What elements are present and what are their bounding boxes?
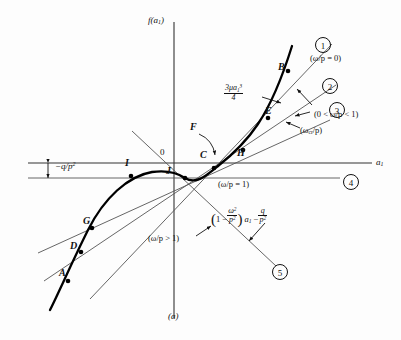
line-3-omega-cr-label: (ωcr/p) (300, 126, 322, 136)
badge-text-4: 4 (349, 178, 354, 188)
point-label-A: A (59, 268, 66, 278)
badge-text-5: 5 (278, 268, 283, 278)
point-label-I: I (125, 158, 129, 168)
point-dot-J (183, 176, 188, 181)
line-1-condition-label: (ω/p = 0) (310, 54, 341, 63)
line-3-condition-label: (0 < ω/p < 1) (314, 110, 358, 119)
point-label-J: J (166, 166, 171, 176)
point-label-D: D (70, 241, 77, 251)
y-axis-label: f(a1) (148, 16, 164, 26)
point-label-G: G (83, 216, 90, 226)
x-axis-label: a1 (376, 158, 383, 168)
offset-label: −q/p2 (55, 162, 76, 171)
arrow-omega-cr (286, 122, 300, 128)
line-5-condition-label: (ω/p > 1) (148, 234, 179, 243)
intersection-points (66, 69, 291, 284)
badge-text-2: 2 (328, 82, 333, 92)
arrow-to-line-3 (295, 112, 310, 116)
badge-text-1: 1 (321, 41, 326, 51)
point-label-C: C (200, 150, 207, 160)
line-4-condition-label: (ω/p = 1) (218, 180, 249, 189)
line-5-equation-label: (1 − ω2 p2 ) a1 − q p2 (211, 207, 267, 227)
point-dot-I (129, 174, 134, 179)
line-2-intermediate (44, 85, 336, 281)
point-dot-E (266, 116, 271, 121)
point-label-B: B (278, 62, 285, 72)
line-number-badges (273, 38, 359, 280)
point-dot-G (90, 226, 95, 231)
point-label-E: E (265, 106, 272, 116)
axes (28, 22, 372, 318)
arrow-omega-gt (196, 226, 211, 236)
point-dot-C (212, 166, 217, 171)
point-dot-D (79, 250, 84, 255)
point-label-H: H (237, 148, 245, 158)
point-dot-A (66, 279, 71, 284)
arrow-to-line-2 (297, 89, 312, 105)
figure-caption: (a) (168, 312, 179, 321)
point-label-F: F (190, 122, 197, 132)
point-dot-B (286, 69, 291, 74)
line-3-omega-cr (38, 120, 330, 253)
origin-label: 0 (160, 148, 165, 157)
cubic-curve-label: 3μa13 4 (224, 84, 243, 102)
